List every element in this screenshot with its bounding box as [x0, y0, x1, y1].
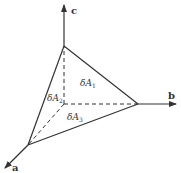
- edge-cb: [64, 46, 138, 104]
- b-axis-label: b: [168, 90, 175, 101]
- face-label-a2: δA2: [47, 93, 63, 104]
- face-label-a1: δA1: [80, 78, 96, 89]
- tetrahedron-diagram: c b a δA1 δA2 δA3: [0, 0, 181, 173]
- a-axis-label: a: [12, 162, 19, 173]
- c-axis-label: c: [71, 5, 77, 16]
- edge-ab: [28, 104, 138, 145]
- face-label-a3: δA3: [67, 112, 83, 123]
